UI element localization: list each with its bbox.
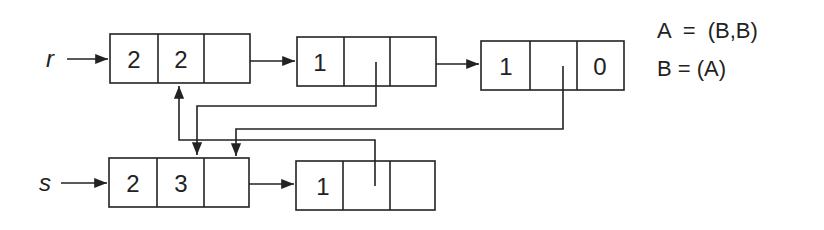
cell-value: 1 — [499, 53, 512, 80]
s-node-2-sublist-arrow — [179, 86, 375, 186]
cell-value: 2 — [174, 46, 187, 73]
equation-b: B = (A) — [657, 56, 726, 82]
cell-value: 0 — [593, 53, 606, 80]
equation-a: A = (B,B) — [657, 18, 758, 44]
cell-value: 2 — [127, 46, 140, 73]
cell-value: 1 — [313, 49, 326, 76]
r-node-2-sublist-arrow — [197, 62, 376, 155]
s-variable-label: s — [39, 169, 51, 196]
cell-value: 2 — [126, 170, 139, 197]
cell-value: 1 — [316, 173, 329, 200]
cell-value: 3 — [174, 170, 187, 197]
r-node-3-sublist-arrow — [236, 66, 563, 156]
r-variable-label: r — [46, 45, 55, 72]
